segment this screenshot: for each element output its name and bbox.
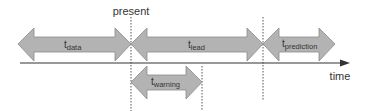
timeline-diagram: present time tdata tlead tprediction twa…	[0, 0, 372, 111]
time-axis-arrowhead	[340, 60, 350, 67]
time-label: time	[330, 70, 351, 82]
present-label: present	[113, 5, 150, 17]
